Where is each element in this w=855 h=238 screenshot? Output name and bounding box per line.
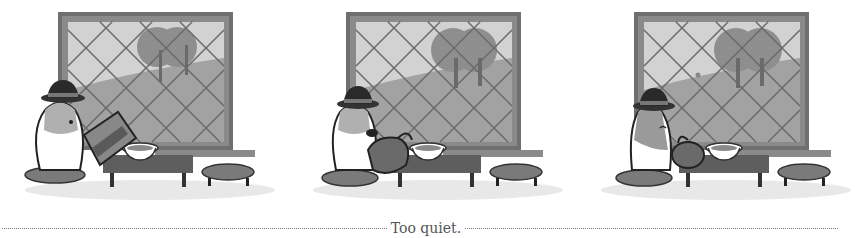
comic-strip <box>0 0 842 210</box>
caption-text: Too quiet. <box>387 218 465 238</box>
panel-2 <box>288 0 568 210</box>
dotted-rule-right <box>465 228 838 229</box>
panel-3 <box>576 0 855 210</box>
panel-1 <box>0 0 280 210</box>
dotted-rule-left <box>2 228 387 229</box>
caption-row: Too quiet. <box>0 218 842 238</box>
